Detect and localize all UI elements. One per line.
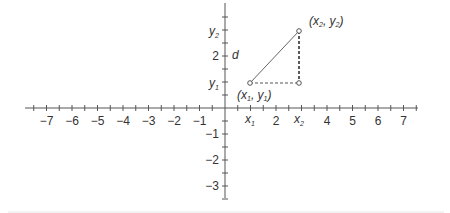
- x-tick-label: 4: [324, 114, 331, 128]
- x-tick-label: 5: [349, 114, 356, 128]
- x-tick-label: −1: [193, 114, 207, 128]
- point-2-label: (x2, y2): [309, 14, 343, 28]
- point-1: [248, 81, 253, 86]
- y-tick-label: −2: [205, 153, 219, 167]
- y-tick-label: −3: [205, 179, 219, 193]
- x-tick-label: 6: [375, 114, 382, 128]
- point-2: [297, 29, 302, 34]
- x-tick-label: −6: [65, 114, 79, 128]
- x-var-label-1: x1: [244, 112, 255, 127]
- x-var-label-2: x2: [293, 112, 304, 127]
- svg-text:x1: x1: [244, 112, 255, 127]
- distance-segment: [250, 31, 299, 83]
- distance-triangle: d: [232, 29, 301, 86]
- x-tick-label: 2: [273, 114, 280, 128]
- x-axis: −7−6−5−4−3−2−124567: [25, 105, 418, 128]
- x-tick-label: −2: [167, 114, 181, 128]
- svg-text:x2: x2: [293, 112, 304, 127]
- y-tick-label: 2: [212, 49, 219, 63]
- svg-text:(x1, y1): (x1, y1): [237, 88, 271, 102]
- x-tick-label: −3: [142, 114, 156, 128]
- svg-text:y2: y2: [208, 24, 219, 39]
- coordinate-plane: −7−6−5−4−3−2−124567 2−1−2−3 d (x1, y1) (…: [0, 0, 450, 213]
- distance-label: d: [232, 48, 239, 62]
- svg-text:(x2, y2): (x2, y2): [309, 14, 343, 28]
- right-angle-vertex: [297, 81, 302, 86]
- x-tick-label: 7: [400, 114, 407, 128]
- point-1-label: (x1, y1): [237, 88, 271, 102]
- y-tick-label: −1: [205, 127, 219, 141]
- x-tick-label: −4: [116, 114, 130, 128]
- x-tick-label: −7: [40, 114, 54, 128]
- y-axis-tick-labels: 2−1−2−3: [205, 49, 219, 193]
- y-var-label-2: y2: [208, 24, 219, 39]
- x-tick-label: −5: [91, 114, 105, 128]
- y-var-label-1: y1: [208, 76, 219, 91]
- svg-text:y1: y1: [208, 76, 219, 91]
